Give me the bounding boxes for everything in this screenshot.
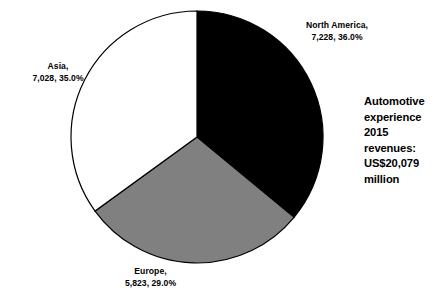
revenue-callout-line6: million [364, 172, 447, 188]
revenue-callout-line4: revenues: [364, 141, 447, 157]
revenue-callout-line1: Automotive [364, 94, 447, 110]
revenue-callout-line2: experience [364, 110, 447, 126]
revenue-callout-line3: 2015 [364, 125, 447, 141]
pie-label-north-america: North America, 7,228, 36.0% [277, 20, 397, 43]
revenue-callout-line5: US$20,079 [364, 156, 447, 172]
pie-label-asia: Asia, 7,028, 35.0% [8, 61, 108, 84]
pie-label-north-america-line2: 7,228, 36.0% [277, 32, 397, 44]
pie-chart-figure: North America, 7,228, 36.0% Asia, 7,028,… [0, 0, 447, 306]
pie-label-europe-line1: Europe, [134, 266, 166, 276]
revenue-callout: Automotive experience 2015 revenues: US$… [364, 94, 447, 188]
pie-label-asia-line1: Asia, [48, 61, 69, 71]
pie-label-europe-line2: 5,823, 29.0% [93, 278, 208, 290]
pie-label-europe: Europe, 5,823, 29.0% [93, 266, 208, 289]
pie-label-asia-line2: 7,028, 35.0% [8, 73, 108, 85]
pie-label-north-america-line1: North America, [306, 20, 368, 30]
